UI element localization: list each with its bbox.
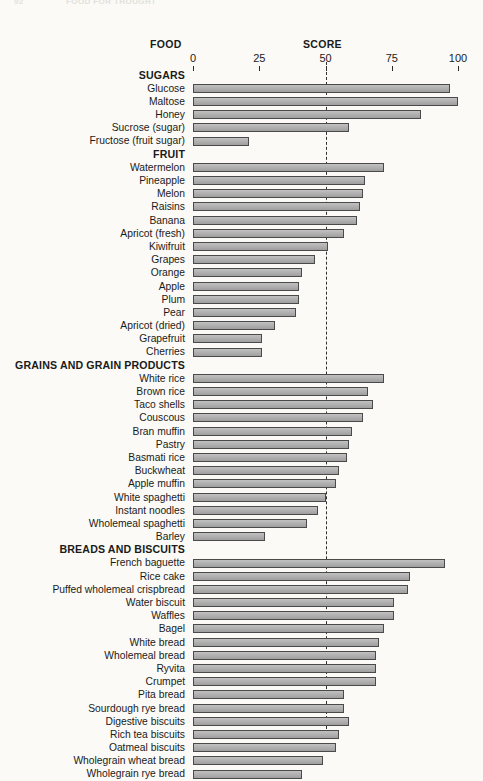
bar-row: White rice — [0, 372, 483, 385]
bar — [193, 163, 384, 172]
bar — [193, 202, 360, 211]
x-tick-label-100: 100 — [449, 52, 467, 64]
bar-row: Brown rice — [0, 386, 483, 399]
bar-label: Grapes — [151, 253, 185, 266]
bar-label: Orange — [151, 266, 185, 279]
bar-row: Bran muffin — [0, 425, 483, 438]
bar-label: French baguette — [110, 556, 185, 569]
bar-label: Apricot (dried) — [120, 319, 185, 332]
section-header: FRUIT — [0, 148, 483, 161]
bar-row: Rice cake — [0, 570, 483, 583]
bar-row: Barley — [0, 531, 483, 544]
section-header: SUGARS — [0, 69, 483, 82]
bar — [193, 137, 249, 146]
bar — [193, 598, 394, 607]
bar-label: Kiwifruit — [149, 240, 185, 253]
bar — [193, 295, 299, 304]
bar-row: White spaghetti — [0, 491, 483, 504]
bar — [193, 321, 275, 330]
bar-label: Grapefruit — [139, 332, 185, 345]
bar — [193, 308, 296, 317]
bar — [193, 413, 363, 422]
bar — [193, 493, 326, 502]
bar — [193, 690, 344, 699]
bar-row: Apple — [0, 280, 483, 293]
bar-label: Buckwheat — [135, 464, 185, 477]
bar-label: Wholegrain wheat bread — [73, 754, 185, 767]
bar-label: Pear — [163, 306, 185, 319]
bar — [193, 97, 458, 106]
bar-label: Bagel — [159, 622, 185, 635]
bar-label: White spaghetti — [114, 491, 185, 504]
bar-row: Basmati rice — [0, 451, 483, 464]
bar-row: Wholegrain wheat bread — [0, 755, 483, 768]
bar-row: Pita bread — [0, 689, 483, 702]
bar-row: Instant noodles — [0, 504, 483, 517]
bar — [193, 677, 376, 686]
bar-row: French baguette — [0, 557, 483, 570]
bar-label: Taco shells — [134, 398, 185, 411]
bar-row: Kiwifruit — [0, 240, 483, 253]
bar-row: Buckwheat — [0, 465, 483, 478]
bar — [193, 176, 365, 185]
bar-row: Apricot (dried) — [0, 320, 483, 333]
bar-label: Oatmeal biscuits — [109, 741, 185, 754]
bar — [193, 506, 318, 515]
bar-row: Apple muffin — [0, 478, 483, 491]
bar — [193, 624, 384, 633]
bar — [193, 638, 379, 647]
bar-row: Orange — [0, 267, 483, 280]
bar-label: Pineapple — [139, 174, 185, 187]
bar-row: Grapes — [0, 254, 483, 267]
bar-label: Apricot (fresh) — [120, 227, 185, 240]
bar-label: Puffed wholemeal crispbread — [52, 583, 185, 596]
bar-row: Taco shells — [0, 399, 483, 412]
bar-row: Waffles — [0, 610, 483, 623]
bar-row: Watermelon — [0, 161, 483, 174]
bar-label: Cherries — [146, 345, 185, 358]
bar-label: Honey — [155, 108, 185, 121]
bar — [193, 717, 349, 726]
bar — [193, 572, 410, 581]
bar-label: White rice — [139, 372, 185, 385]
bar — [193, 651, 376, 660]
bar-label: Plum — [162, 293, 185, 306]
bar-label: Pastry — [156, 438, 185, 451]
bar-row: Puffed wholemeal crispbread — [0, 583, 483, 596]
bar-row: Wholemeal bread — [0, 649, 483, 662]
bar-label: Barley — [156, 530, 185, 543]
bar-label: Melon — [157, 187, 185, 200]
bar — [193, 704, 344, 713]
bar — [193, 730, 339, 739]
bar — [193, 110, 421, 119]
bar-row: Wholegrain rye bread — [0, 768, 483, 781]
bar-label: Glucose — [147, 82, 185, 95]
bar-label: Apple — [159, 280, 185, 293]
bar — [193, 334, 262, 343]
bar-row: Fructose (fruit sugar) — [0, 135, 483, 148]
bar-label: Brown rice — [136, 385, 185, 398]
bar — [193, 585, 408, 594]
bar-label: White bread — [129, 636, 185, 649]
bar-label: Wholegrain rye bread — [87, 767, 185, 780]
bar — [193, 84, 450, 93]
bar-label: Instant noodles — [115, 504, 185, 517]
bar-row: Cherries — [0, 346, 483, 359]
bar-row: Honey — [0, 109, 483, 122]
section-header: GRAINS AND GRAIN PRODUCTS — [0, 359, 483, 372]
bar-label: Waffles — [151, 609, 185, 622]
bar-row: Digestive biscuits — [0, 715, 483, 728]
bar-label: Basmati rice — [128, 451, 185, 464]
bar-row: White bread — [0, 636, 483, 649]
bar-label: Rice cake — [140, 570, 185, 583]
bar — [193, 123, 349, 132]
bar-row: Apricot (fresh) — [0, 227, 483, 240]
x-tick-label-25: 25 — [253, 52, 265, 64]
bar-row: Pastry — [0, 438, 483, 451]
bar-row: Pear — [0, 306, 483, 319]
x-tick-label-75: 75 — [386, 52, 398, 64]
bar — [193, 189, 363, 198]
bar — [193, 453, 347, 462]
bar-label: Ryvita — [156, 662, 185, 675]
